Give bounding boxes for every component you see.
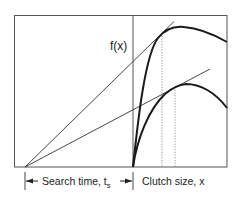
right-arrowhead-icon xyxy=(125,179,132,184)
search-time-text: Search time, t xyxy=(42,175,107,187)
upper-tangent-line xyxy=(25,22,174,168)
left-arrowhead-icon xyxy=(26,179,33,184)
search-time-label: Search time, ts xyxy=(42,175,111,190)
lower-fitness-curve xyxy=(133,84,227,167)
clutch-size-label: Clutch size, x xyxy=(142,175,205,187)
y-axis-label: f(x) xyxy=(110,39,127,53)
diagram-canvas: f(x) Search time, ts Clutch size, x xyxy=(0,0,239,199)
search-time-subscript: s xyxy=(107,181,111,190)
